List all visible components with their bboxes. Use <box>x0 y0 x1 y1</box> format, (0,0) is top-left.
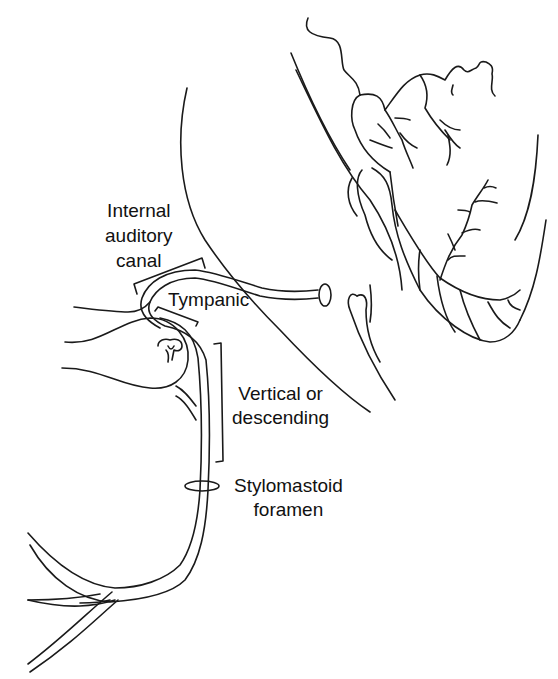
facial-nerve-diagram <box>0 0 558 679</box>
vertical-or-descending-label: Vertical or descending <box>232 382 329 430</box>
stylomastoid-foramen-label: Stylomastoid foramen <box>234 474 343 522</box>
tympanic-label: Tympanic <box>168 288 249 312</box>
tympanic-cavity <box>62 302 196 420</box>
internal-auditory-canal-label: Internal auditory canal <box>105 198 173 273</box>
facial-nerve <box>28 270 331 672</box>
vertical-segment-bracket <box>214 343 223 462</box>
brain-outline <box>306 18 546 342</box>
stylomastoid-foramen-ring <box>185 481 219 491</box>
stapes-icon <box>158 339 182 360</box>
temporal-bone-outline <box>181 53 402 412</box>
